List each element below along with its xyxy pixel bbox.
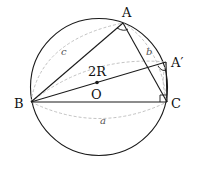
label-A-prime: A′ [170,55,183,70]
segment-BA [31,23,123,102]
segment-AC [123,23,167,102]
arc-side-a [31,102,167,119]
label-side-c: c [61,46,67,57]
label-side-a: a [100,115,106,126]
label-side-b: b [146,46,152,57]
geometry-diagram: A A′ B C O 2R c b a [0,0,199,169]
label-2R: 2R [88,64,107,79]
label-O: O [91,87,102,102]
label-A: A [121,5,132,20]
label-B: B [14,96,24,111]
label-C: C [171,96,181,111]
center-point-O [95,81,99,85]
